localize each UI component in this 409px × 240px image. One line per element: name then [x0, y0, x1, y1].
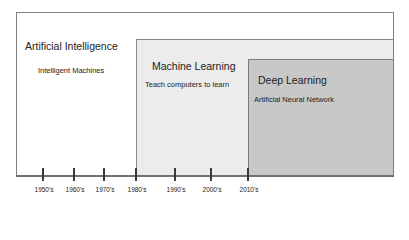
tick-2010s	[247, 168, 249, 181]
dl-title: Deep Learning	[258, 74, 327, 86]
tick-label-1960s: 1960's	[66, 186, 85, 193]
ai-subtitle: Intelligent Machines	[38, 66, 104, 75]
tick-1960s	[73, 168, 75, 181]
tick-label-1980s: 1980's	[128, 186, 147, 193]
ai-title: Artificial Intelligence	[25, 40, 118, 52]
tick-1970s	[103, 168, 105, 181]
tick-1980s	[135, 168, 137, 181]
tick-label-2010s: 2010's	[240, 186, 259, 193]
ml-subtitle: Teach computers to learn	[145, 80, 229, 89]
tick-label-1970s: 1970's	[96, 186, 115, 193]
tick-label-1950s: 1950's	[35, 186, 54, 193]
tick-2000s	[210, 168, 212, 181]
tick-1950s	[42, 168, 44, 181]
dl-subtitle: Artificial Neural Network	[254, 95, 334, 104]
tick-label-1990s: 1990's	[167, 186, 186, 193]
tick-label-2000s: 2000's	[203, 186, 222, 193]
tick-1990s	[174, 168, 176, 181]
ml-title: Machine Learning	[152, 60, 235, 72]
